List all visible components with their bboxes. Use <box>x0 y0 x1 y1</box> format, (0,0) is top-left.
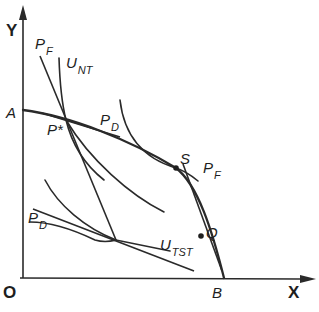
p-f-lower-label: PF <box>203 160 221 175</box>
p-d-lower-label: PD <box>28 210 47 225</box>
point-p-star-label: P* <box>47 122 63 137</box>
point-s-label: S <box>180 151 190 166</box>
point-s-marker <box>173 165 179 171</box>
higher-indifference-curve <box>120 100 198 181</box>
u-tst-upper-arc <box>45 180 116 240</box>
point-q-marker <box>198 233 204 239</box>
x-axis-label: X <box>288 284 299 301</box>
p-d-upper-label: PD <box>100 112 119 127</box>
point-q-label: Q <box>206 225 218 240</box>
p-f-upper-label: PF <box>35 36 53 51</box>
origin-label: O <box>3 284 16 301</box>
u-tst-label: UTST <box>160 237 193 252</box>
u-nt-label: UNT <box>66 55 93 70</box>
p-f-upper-line <box>40 56 116 240</box>
point-a-label: A <box>6 105 16 120</box>
point-b-label: B <box>212 285 222 300</box>
y-axis-arrow-icon <box>19 5 27 20</box>
u-tst-indifference-curve <box>30 222 170 251</box>
inner-curve-from-p-star <box>66 120 164 212</box>
x-axis-arrow-icon <box>300 275 316 283</box>
x-axis <box>20 278 300 279</box>
trade-diagram: Y O X A B P* S Q PF UNT PD PF PD UTST <box>0 0 319 312</box>
y-axis-label: Y <box>6 22 17 39</box>
